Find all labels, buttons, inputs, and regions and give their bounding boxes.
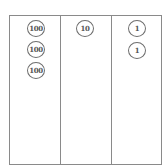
place-value-chart	[9, 15, 162, 165]
column-divider-hundreds-tens	[60, 15, 61, 165]
hundred-disk: 100	[27, 62, 45, 79]
one-disk: 1	[128, 20, 146, 37]
hundred-disk: 100	[27, 41, 45, 58]
hundred-disk: 100	[27, 20, 45, 37]
column-divider-tens-ones	[111, 15, 112, 165]
ten-disk: 10	[76, 20, 94, 37]
one-disk: 1	[128, 42, 146, 59]
